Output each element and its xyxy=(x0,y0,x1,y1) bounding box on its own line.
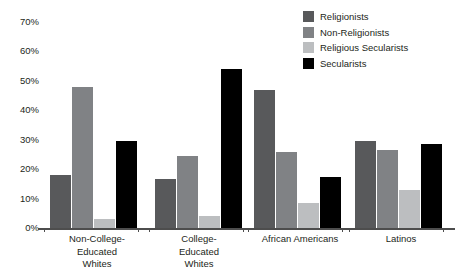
x-axis-category-label: College- Educated Whites xyxy=(149,233,249,271)
bar xyxy=(155,179,176,228)
y-tick-label: 10% xyxy=(20,194,39,204)
x-axis-tick xyxy=(243,228,244,232)
bar-group xyxy=(50,22,137,228)
x-axis-tick xyxy=(44,228,45,232)
y-tick-label: 50% xyxy=(20,76,39,86)
y-axis: 0%10%20%30%40%50%60%70% xyxy=(0,0,44,276)
bar xyxy=(320,177,341,229)
x-axis-category-label: African Americans xyxy=(245,233,355,246)
legend-label: Religious Secularists xyxy=(320,42,408,53)
legend-label: Religionists xyxy=(320,11,369,22)
bar xyxy=(421,144,442,228)
x-axis-tick xyxy=(342,228,343,232)
y-tick-label: 20% xyxy=(20,164,39,174)
bar xyxy=(50,175,71,228)
x-axis-category-label: Non-College- Educated Whites xyxy=(42,233,152,271)
bar xyxy=(177,156,198,228)
y-tick-label: 30% xyxy=(20,135,39,145)
x-axis-tick xyxy=(149,228,150,232)
bar xyxy=(298,203,319,228)
x-axis-line xyxy=(38,228,455,230)
legend-swatch-icon xyxy=(303,42,314,53)
x-axis-tick xyxy=(248,228,249,232)
x-axis-tick xyxy=(349,228,350,232)
bar xyxy=(199,216,220,228)
bar xyxy=(116,141,137,228)
bar-group xyxy=(155,22,242,228)
x-axis-category-label: Latinos xyxy=(356,233,446,246)
y-tick-label: 70% xyxy=(20,17,39,27)
y-tick-label: 0% xyxy=(25,223,39,233)
bar xyxy=(221,69,242,228)
legend-swatch-icon xyxy=(303,27,314,38)
bar xyxy=(399,190,420,228)
x-axis-tick xyxy=(138,228,139,232)
legend-item[interactable]: Religionists xyxy=(303,9,408,25)
bar xyxy=(72,87,93,228)
legend-item[interactable]: Secularists xyxy=(303,56,408,72)
legend-item[interactable]: Religious Secularists xyxy=(303,40,408,56)
bar xyxy=(276,152,297,229)
x-axis-tick xyxy=(443,228,444,232)
bar xyxy=(377,150,398,228)
bar xyxy=(254,90,275,228)
legend-item[interactable]: Non-Religionists xyxy=(303,25,408,41)
legend-label: Secularists xyxy=(320,58,366,69)
y-tick-label: 60% xyxy=(20,46,39,56)
bar-chart: 0%10%20%30%40%50%60%70% Non-College- Edu… xyxy=(0,0,458,276)
y-tick-label: 40% xyxy=(20,105,39,115)
legend-swatch-icon xyxy=(303,11,314,22)
legend-swatch-icon xyxy=(303,58,314,69)
legend: ReligionistsNon-ReligionistsReligious Se… xyxy=(303,9,408,71)
bar xyxy=(94,219,115,228)
bar xyxy=(355,141,376,228)
legend-label: Non-Religionists xyxy=(320,27,389,38)
